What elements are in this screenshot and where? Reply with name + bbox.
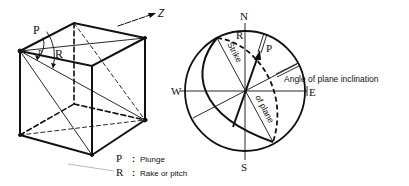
legend-symbol-p: P <box>116 152 122 164</box>
stereonet-label-r: R <box>236 29 244 41</box>
legend-leader-line <box>68 164 114 171</box>
cube-vertex <box>18 49 22 53</box>
of-plane-label: of plane <box>253 93 276 125</box>
cube-diagonal-space <box>20 51 145 120</box>
z-axis-label: Z <box>157 8 165 19</box>
cube-vertex <box>143 118 147 122</box>
cube-vertex <box>19 134 22 137</box>
legend-text-rake: Rake or pitch <box>140 169 187 178</box>
lineation-line <box>233 56 258 127</box>
diagram-canvas: P R P Z N S W E R P Strike of plane Angl… <box>0 0 409 186</box>
compass-east: E <box>309 86 316 98</box>
plunge-tick <box>258 33 264 52</box>
z-axis-arrowhead <box>148 13 156 18</box>
cube-label-p-small: P <box>38 49 43 58</box>
strike-label: Strike <box>225 40 244 64</box>
legend-separator-p: : <box>132 154 135 164</box>
legend-text-plunge: Plunge <box>140 155 165 164</box>
cube-vertex <box>144 37 147 40</box>
arc-arrowhead <box>51 63 56 68</box>
cube-bottom-front-edges <box>20 120 145 155</box>
z-axis-line <box>118 15 150 26</box>
compass-south: S <box>241 161 247 173</box>
cube-label-p: P <box>33 23 40 37</box>
legend: P : Plunge R : Rake or pitch <box>116 152 187 178</box>
legend-separator-r: : <box>132 168 135 178</box>
cube-hidden-bottom-left-edge <box>20 104 74 135</box>
lineation-arrowhead <box>254 50 261 60</box>
compass-west: W <box>171 85 182 97</box>
inclination-label: Angle of plane inclination <box>284 74 379 84</box>
cube-vertex <box>91 154 94 157</box>
legend-symbol-r: R <box>116 166 124 178</box>
cube-label-r: R <box>55 47 63 61</box>
compass-north: N <box>240 10 248 22</box>
cube-diagonal-front <box>20 51 92 155</box>
cube-hidden-bottom-right-edge <box>74 104 145 120</box>
cube-dashed-diagonal-back <box>74 23 145 120</box>
stereonet-figure <box>180 23 307 160</box>
stereonet-label-p: P <box>266 42 272 54</box>
